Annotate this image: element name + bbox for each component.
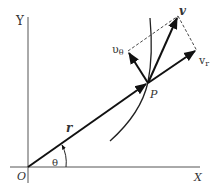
radial-velocity-label: vr (198, 54, 209, 68)
velocity-label: v (179, 4, 187, 18)
polar-velocity-diagram: Y X O P r θ v vr υθ (0, 0, 218, 194)
point-p-label: P (149, 88, 158, 101)
dashed-line-v-to-vr (178, 16, 197, 51)
transverse-velocity-vector (129, 53, 148, 83)
origin-label: O (17, 170, 26, 183)
radial-velocity-subscript: r (205, 59, 209, 68)
transverse-velocity-label: υθ (112, 43, 124, 57)
y-axis-label: Y (15, 14, 25, 28)
transverse-velocity-subscript: θ (119, 48, 124, 57)
angle-label: θ (52, 157, 58, 168)
x-axis-label: X (193, 171, 203, 184)
position-vector-label: r (66, 121, 74, 135)
angle-arc (62, 145, 66, 167)
position-vector-r (28, 84, 146, 167)
